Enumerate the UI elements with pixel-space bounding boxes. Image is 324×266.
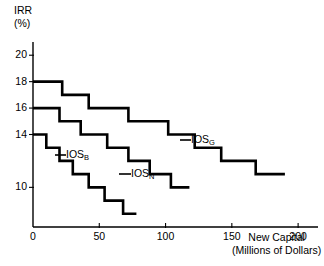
y-tick-label-20: 20 [3, 49, 27, 60]
series-label-subscript: B [84, 153, 89, 162]
series-label-text: IOS [66, 148, 84, 160]
chart-container: IRR (%) New Capital (Millions of Dollars… [0, 0, 324, 266]
y-axis-title-line1: IRR [14, 4, 32, 16]
series-label-text: IOS [131, 167, 149, 179]
series-label-ios-g: IOSG [191, 133, 215, 145]
chart-plot-area [0, 0, 324, 266]
x-tick-label-200: 200 [283, 231, 313, 242]
y-axis-title: IRR (%) [14, 4, 32, 29]
series-label-ios-b: IOSB [66, 148, 89, 160]
y-tick-label-10: 10 [3, 181, 27, 192]
x-tick-label-150: 150 [217, 231, 247, 242]
series-label-ios-n: IOSN [131, 167, 155, 179]
series-label-subscript: G [209, 138, 215, 147]
series-label-text: IOS [191, 133, 209, 145]
x-axis-title-line2: (Millions of Dollars) [232, 244, 321, 257]
x-tick-label-100: 100 [151, 231, 181, 242]
series-label-subscript: N [149, 172, 154, 181]
y-tick-label-16: 16 [3, 102, 27, 113]
x-tick-label-0: 0 [18, 231, 48, 242]
x-tick-label-50: 50 [84, 231, 114, 242]
y-tick-label-14: 14 [3, 129, 27, 140]
y-axis-title-line2: (%) [14, 17, 30, 29]
y-tick-label-18: 18 [3, 76, 27, 87]
